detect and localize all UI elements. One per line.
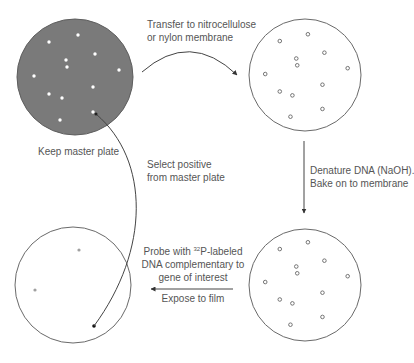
colony-dot xyxy=(278,298,282,302)
colony-dot xyxy=(60,96,63,99)
membrane-colonies xyxy=(263,32,349,118)
colony-dot xyxy=(91,110,94,113)
colony-dot xyxy=(117,68,120,71)
colony-dot xyxy=(32,74,35,77)
master-positive-marker xyxy=(95,113,98,116)
transfer-label-line2: or nylon membrane xyxy=(147,31,256,44)
colony-dot xyxy=(321,83,325,87)
colony-dot xyxy=(346,274,350,278)
colony-dot xyxy=(295,272,299,276)
colony-dot xyxy=(321,107,325,111)
select-label-line2: from master plate xyxy=(147,171,225,184)
probe-label-line3: gene of interest xyxy=(140,271,246,284)
master-plate xyxy=(17,19,133,135)
denature-label-line1: Denature DNA (NaOH). xyxy=(310,164,414,177)
colony-dot xyxy=(47,40,50,43)
colony-dot xyxy=(76,33,79,36)
colony-dot xyxy=(346,66,350,70)
colony-dot xyxy=(47,92,50,95)
membrane-plate xyxy=(249,19,361,131)
colony-dot xyxy=(295,64,299,68)
colony-dot xyxy=(64,58,67,61)
transfer-arrow xyxy=(142,52,237,75)
colony-dot xyxy=(33,288,36,291)
colony-dot xyxy=(294,57,298,61)
colony-dot xyxy=(323,51,327,55)
colony-dot xyxy=(58,118,61,121)
colony-dot xyxy=(93,52,96,55)
colony-dot xyxy=(278,39,282,43)
denature-label-line2: Bake on to membrane xyxy=(310,177,414,190)
expose-label: Expose to film xyxy=(150,292,236,305)
expose-text: Expose to film xyxy=(162,293,225,304)
probe-label-line2: DNA complementary to xyxy=(140,258,246,271)
colony-dot xyxy=(323,259,327,263)
colony-dot xyxy=(263,280,267,284)
colony-dot xyxy=(289,323,293,327)
colony-dot xyxy=(321,315,325,319)
probe-label-line1: Probe with 32P-labeled xyxy=(140,245,246,258)
colony-dot xyxy=(321,291,325,295)
colony-dot xyxy=(91,85,94,88)
colony-dot xyxy=(306,32,310,36)
colony-dot xyxy=(291,302,295,306)
colony-dot xyxy=(77,248,80,251)
colony-dot xyxy=(294,265,298,269)
select-label-line1: Select positive xyxy=(147,158,225,171)
denatured-membrane-plate xyxy=(249,229,361,341)
transfer-label: Transfer to nitrocellulose or nylon memb… xyxy=(147,18,256,44)
keep-master-text: Keep master plate xyxy=(38,146,119,157)
colony-dot xyxy=(289,115,293,119)
denature-label: Denature DNA (NaOH). Bake on to membrane xyxy=(310,164,414,190)
denatured-colonies xyxy=(263,240,349,326)
colony-dot xyxy=(291,94,295,98)
film-plate xyxy=(15,227,131,343)
colony-dot xyxy=(65,65,68,68)
colony-dot xyxy=(306,240,310,244)
select-positive-label: Select positive from master plate xyxy=(147,158,225,184)
probe-label: Probe with 32P-labeled DNA complementary… xyxy=(140,245,246,284)
transfer-label-line1: Transfer to nitrocellulose xyxy=(147,18,256,31)
colony-dot xyxy=(278,247,282,251)
colony-dot xyxy=(278,90,282,94)
colony-dot xyxy=(263,72,267,76)
keep-master-label: Keep master plate xyxy=(38,145,112,158)
film-spots xyxy=(33,248,95,327)
